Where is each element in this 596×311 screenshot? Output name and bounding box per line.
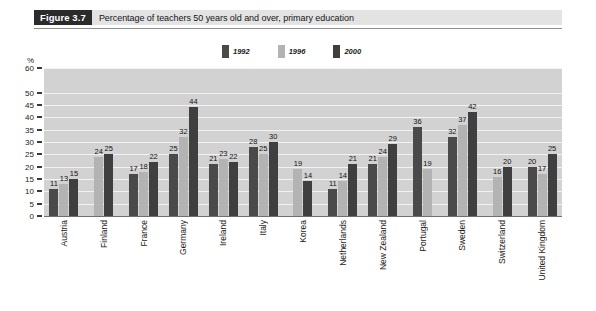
bar-1996: 24 — [378, 68, 387, 216]
y-tick-mark — [37, 92, 42, 94]
bar-value-label: 19 — [423, 159, 431, 168]
bar-rect — [448, 137, 457, 216]
bar-1992: 25 — [169, 68, 178, 216]
bar-2000: 25 — [104, 68, 113, 216]
y-tick-mark — [37, 129, 42, 131]
bar-2000: 14 — [303, 68, 312, 216]
bar-rect — [209, 164, 218, 216]
bar-1996: 13 — [59, 68, 68, 216]
bar-value-label: 25 — [259, 144, 267, 153]
x-tick-label: Finland — [99, 220, 109, 248]
bar-rect — [528, 167, 537, 216]
bar-group: 212322 — [203, 68, 243, 216]
y-tick-mark — [37, 104, 42, 106]
x-tick-label: United Kingdom — [537, 220, 547, 280]
bar-value-label: 24 — [95, 147, 103, 156]
bar-value-label: 18 — [139, 162, 147, 171]
bar-2000: 29 — [388, 68, 397, 216]
bar-rect — [328, 189, 337, 216]
bar-value-label: 14 — [339, 171, 347, 180]
figure-title: Percentage of teachers 50 years old and … — [92, 10, 562, 25]
bar-group: 2425 — [84, 68, 124, 216]
y-tick-mark — [37, 203, 42, 205]
bar-rect — [368, 164, 377, 216]
bar-rect — [149, 162, 158, 216]
bar-value-label: 22 — [229, 152, 237, 161]
bar-value-label: 16 — [493, 167, 501, 176]
legend-swatch-icon — [333, 45, 340, 58]
bar-group: 212429 — [363, 68, 403, 216]
y-tick-label: 5 — [18, 199, 34, 208]
bar-rect — [229, 162, 238, 216]
bar-2000: 25 — [548, 68, 557, 216]
legend-1992: 1992 — [222, 45, 250, 58]
bar-value-label: 25 — [548, 144, 556, 153]
bar-value-label: 30 — [269, 132, 277, 141]
y-tick-mark — [37, 153, 42, 155]
legend-label: 1996 — [289, 47, 306, 56]
bar-1996: 17 — [538, 68, 547, 216]
y-axis: 6050454035302520151050 — [18, 68, 42, 216]
bar-value-label: 21 — [209, 154, 217, 163]
x-tick-label: Korea — [298, 220, 308, 243]
bar-1992: 17 — [129, 68, 138, 216]
bar-2000: 20 — [503, 68, 512, 216]
bar-1996: 19 — [293, 68, 302, 216]
x-tick-label: Switzerland — [497, 220, 507, 264]
bar-value-label: 37 — [458, 115, 466, 124]
y-tick-label: 0 — [18, 212, 34, 221]
bar-1996: 16 — [493, 68, 502, 216]
bar-2000: 30 — [269, 68, 278, 216]
bar-rect — [219, 159, 228, 216]
bar-rect — [269, 142, 278, 216]
y-tick-label: 45 — [18, 101, 34, 110]
bar-rect — [538, 174, 547, 216]
bar-value-label: 19 — [294, 159, 302, 168]
bar-rect — [548, 154, 557, 216]
bar-rect — [129, 174, 138, 216]
bar-value-label: 11 — [329, 179, 337, 188]
y-tick-mark — [37, 215, 42, 217]
legend-swatch-icon — [278, 45, 285, 58]
bar-1996: 19 — [423, 68, 432, 216]
x-tick-label: Netherlands — [338, 220, 348, 266]
bar-value-label: 32 — [448, 127, 456, 136]
legend-label: 2000 — [344, 47, 361, 56]
bar-rect — [493, 177, 502, 216]
bar-2000: 44 — [189, 68, 198, 216]
y-tick-label: 25 — [18, 150, 34, 159]
bar-group: 201725 — [522, 68, 562, 216]
bars-layer: 1113152425171822253244212322282530191411… — [44, 68, 562, 216]
y-tick-label: 50 — [18, 88, 34, 97]
bar-value-label: 14 — [304, 171, 312, 180]
y-tick-label: 30 — [18, 138, 34, 147]
bar-1992: 32 — [448, 68, 457, 216]
header-divider — [34, 28, 562, 29]
bar-2000: 22 — [149, 68, 158, 216]
bar-rect — [169, 154, 178, 216]
bar-1992: 28 — [249, 68, 258, 216]
bar-value-label: 17 — [129, 164, 137, 173]
bar-rect — [468, 112, 477, 216]
bar-1996: 18 — [139, 68, 148, 216]
x-tick-label: Portugal — [418, 220, 428, 252]
y-tick-mark — [37, 178, 42, 180]
bar-value-label: 29 — [389, 134, 397, 143]
bar-value-label: 25 — [105, 144, 113, 153]
bar-2000: 15 — [69, 68, 78, 216]
bar-value-label: 20 — [528, 157, 536, 166]
y-tick-mark — [37, 190, 42, 192]
bar-rect — [69, 179, 78, 216]
bar-1992: 21 — [209, 68, 218, 216]
bar-value-label: 23 — [219, 149, 227, 158]
bar-rect — [49, 189, 58, 216]
x-tick-label: New Zealand — [378, 220, 388, 270]
bar-rect — [458, 125, 467, 216]
x-tick-label: Austria — [59, 220, 69, 246]
bar-value-label: 44 — [189, 97, 197, 106]
bar-2000: 22 — [229, 68, 238, 216]
bar-rect — [303, 181, 312, 216]
bar-value-label: 17 — [538, 164, 546, 173]
bar-group: 253244 — [164, 68, 204, 216]
x-tick-label: France — [139, 220, 149, 246]
